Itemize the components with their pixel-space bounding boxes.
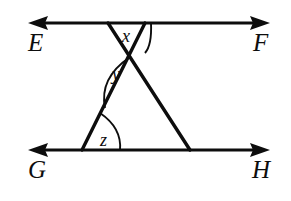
point-label-e: E <box>28 30 43 55</box>
line-ef-right-arrowhead <box>250 16 270 30</box>
angle-label-y: y <box>112 65 120 83</box>
line-ef <box>28 16 270 30</box>
angle-label-z: z <box>100 131 107 149</box>
geometry-figure: E F G H x y z <box>0 0 291 201</box>
line-gh-left-arrowhead <box>28 143 48 157</box>
point-label-f: F <box>253 30 268 55</box>
point-label-g: G <box>28 157 46 182</box>
angle-arc-x <box>145 23 151 53</box>
line-gh <box>28 143 270 157</box>
line-gh-right-arrowhead <box>250 143 270 157</box>
transversal-rising <box>82 23 145 150</box>
line-ef-left-arrowhead <box>28 16 48 30</box>
point-label-h: H <box>252 157 270 182</box>
angle-label-x: x <box>122 27 130 45</box>
